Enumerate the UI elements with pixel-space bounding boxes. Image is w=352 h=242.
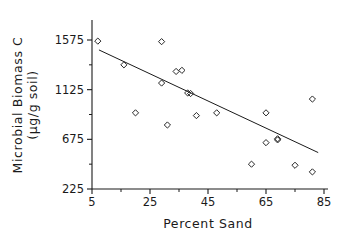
data-point-marker xyxy=(179,67,185,73)
axes xyxy=(92,20,328,189)
data-point-marker xyxy=(159,39,165,45)
data-point-marker xyxy=(95,38,101,44)
x-axis-title: Percent Sand xyxy=(163,216,253,231)
data-point-marker xyxy=(309,96,315,102)
scatter-plot-figure: 22567511251575525456585 Percent Sand Mic… xyxy=(0,0,352,242)
regression-line xyxy=(99,50,318,153)
plot-canvas: 22567511251575525456585 Percent Sand Mic… xyxy=(0,0,352,242)
x-tick-label: 25 xyxy=(143,195,158,209)
x-tick-label: 5 xyxy=(88,195,95,209)
data-point-marker xyxy=(309,169,315,175)
x-tick-label: 45 xyxy=(201,195,216,209)
y-tick-label: 1575 xyxy=(55,33,84,47)
data-point-marker xyxy=(159,80,165,86)
y-tick-label: 225 xyxy=(62,182,84,196)
fit-line-segment xyxy=(99,50,318,153)
data-point-marker xyxy=(263,140,269,146)
data-point-marker xyxy=(248,161,254,167)
data-point-marker xyxy=(214,110,220,116)
data-point-marker xyxy=(292,162,298,168)
data-point-marker xyxy=(193,113,199,119)
data-point-marker xyxy=(132,110,138,116)
y-axis-title-line2: (µg/g soil) xyxy=(25,70,40,139)
data-point-marker xyxy=(164,122,170,128)
x-tick-label: 85 xyxy=(317,195,332,209)
data-point-marker xyxy=(263,110,269,116)
data-points xyxy=(95,38,316,175)
axis-tick-labels: 22567511251575525456585 xyxy=(55,33,332,209)
y-axis-title-line1: Microbial Biomass C xyxy=(10,37,25,174)
y-tick-label: 1125 xyxy=(55,83,84,97)
y-tick-label: 675 xyxy=(62,132,84,146)
data-point-marker xyxy=(173,68,179,74)
x-tick-label: 65 xyxy=(259,195,274,209)
